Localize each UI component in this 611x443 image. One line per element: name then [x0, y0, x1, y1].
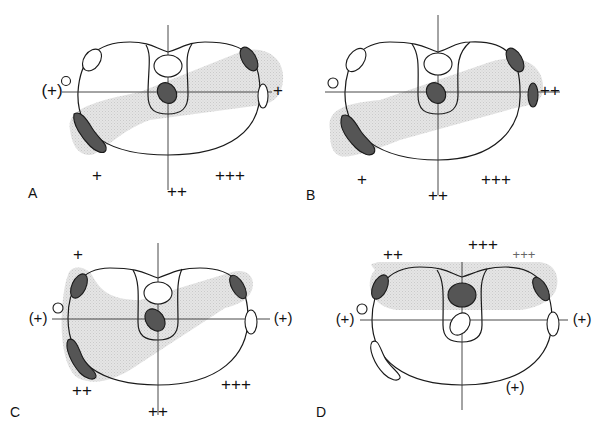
panel-letter: C — [10, 404, 20, 420]
marker-right-mid — [245, 310, 257, 334]
label-right: + — [273, 81, 283, 100]
marker-right-mid — [528, 83, 538, 107]
marker-outer-circle — [357, 304, 367, 314]
label-bottom-center: ++ — [148, 402, 168, 421]
panel-a: (+) + + ++ +++ A — [28, 25, 283, 201]
label-top-left: + — [73, 245, 83, 264]
marker-center-top — [154, 55, 182, 77]
label-bottom-right: +++ — [221, 375, 251, 394]
marker-center-lower — [446, 309, 475, 339]
marker-lower-left — [371, 341, 400, 380]
label-right: (+) — [274, 309, 293, 326]
label-left: (+) — [29, 309, 48, 326]
label-bottom-left: ++ — [72, 381, 92, 400]
marker-center-top — [424, 53, 452, 75]
label-bottom-right: +++ — [215, 166, 245, 185]
label-top-left: ++ — [383, 245, 403, 264]
panel-c: + (+) (+) ++ ++ +++ C — [10, 243, 292, 421]
label-bottom-right: (+) — [506, 378, 525, 395]
marker-right-mid — [258, 84, 268, 108]
figure-canvas: (+) + + ++ +++ A ++ + ++ +++ B — [0, 0, 611, 443]
label-right: (+) — [573, 310, 592, 327]
label-top-center: +++ — [468, 235, 498, 254]
panel-d: ++ +++ +++ (+) (+) (+) D — [316, 235, 591, 419]
label-left: (+) — [336, 310, 355, 327]
marker-center-top — [144, 282, 172, 304]
label-top-right-dotted: +++ — [513, 247, 536, 262]
marker-upper-left — [342, 45, 370, 75]
label-bottom-center: ++ — [428, 186, 448, 205]
marker-outer-circle — [62, 77, 71, 86]
label-bottom-center: ++ — [167, 182, 187, 201]
panel-letter: D — [316, 404, 326, 420]
panel-letter: A — [28, 185, 38, 201]
panel-b: ++ + ++ +++ B — [306, 15, 560, 205]
panel-letter: B — [306, 187, 315, 203]
marker-outer-circle — [53, 303, 63, 313]
label-bottom-left: + — [92, 166, 102, 185]
marker-center-top — [448, 283, 476, 307]
marker-right-mid — [547, 312, 559, 336]
label-bottom-right: +++ — [481, 170, 511, 189]
marker-outer-circle — [328, 78, 338, 88]
label-left: (+) — [41, 81, 62, 100]
label-right: ++ — [540, 81, 560, 100]
label-bottom-left: + — [357, 170, 367, 189]
